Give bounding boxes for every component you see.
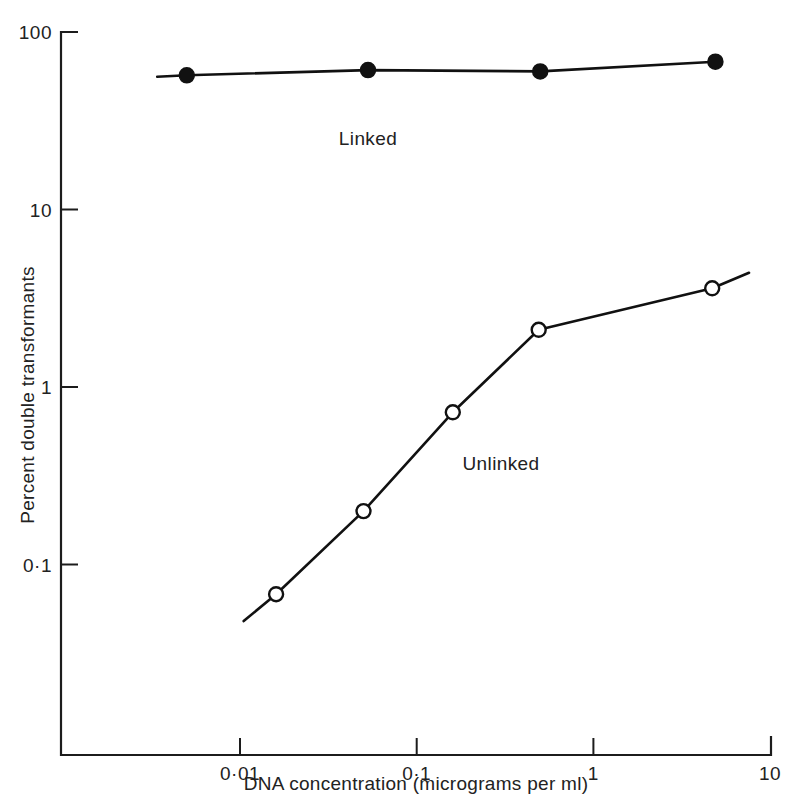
data-point-unlinked-2	[446, 405, 460, 419]
chart-canvas: 1001010·1 0·010·1110 LinkedUnlinked DNA …	[0, 0, 794, 808]
data-point-unlinked-4	[705, 281, 719, 295]
y-axis-ticks	[61, 32, 78, 565]
data-point-linked-3	[708, 54, 723, 69]
figure-container: 1001010·1 0·010·1110 LinkedUnlinked DNA …	[0, 0, 794, 808]
y-tick-label: 0·1	[23, 555, 52, 576]
data-point-linked-0	[179, 68, 194, 83]
data-point-linked-2	[533, 64, 548, 79]
series-annotation-linked: Linked	[339, 128, 397, 149]
x-axis-ticks	[240, 738, 593, 755]
data-point-unlinked-1	[357, 504, 371, 518]
axis-frame	[61, 32, 771, 755]
y-axis-title: Percent double transformants	[17, 266, 38, 524]
series-lines	[157, 62, 749, 621]
y-tick-label: 100	[19, 22, 52, 43]
data-point-linked-1	[361, 63, 376, 78]
series-annotations: LinkedUnlinked	[339, 128, 540, 474]
y-tick-label: 10	[30, 200, 52, 221]
series-annotation-unlinked: Unlinked	[462, 453, 539, 474]
series-line-unlinked	[244, 273, 749, 621]
y-tick-label: 1	[41, 377, 52, 398]
data-point-unlinked-0	[269, 587, 283, 601]
series-line-linked	[157, 62, 715, 77]
data-point-unlinked-3	[532, 323, 546, 337]
x-tick-label: 10	[759, 763, 781, 784]
x-axis-title: DNA concentration (micrograms per ml)	[244, 773, 589, 794]
x-tick-label: 1	[588, 763, 599, 784]
series-markers	[179, 54, 723, 601]
